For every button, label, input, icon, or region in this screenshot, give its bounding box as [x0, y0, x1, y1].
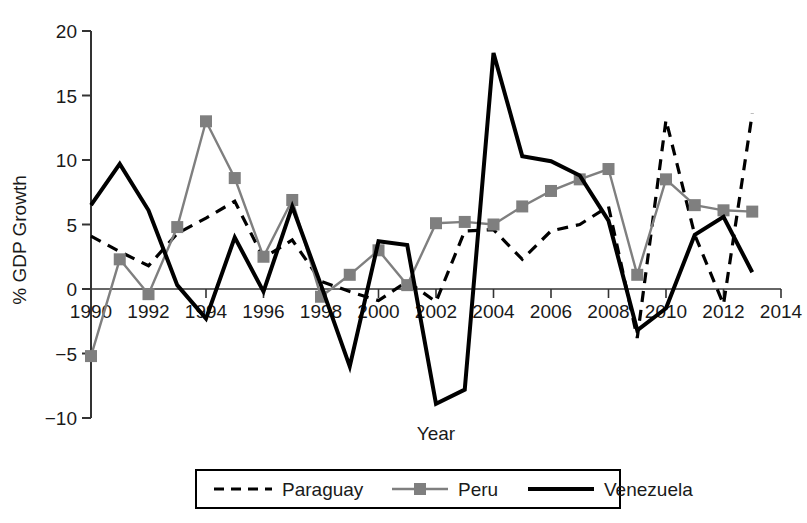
data-point-marker	[689, 199, 701, 211]
x-tick-label-2006: 2006	[530, 301, 572, 322]
data-point-marker	[143, 288, 155, 300]
x-tick-label-1998: 1998	[300, 301, 342, 322]
legend-label-venezuela: Venezuela	[604, 479, 693, 500]
x-tick-label-1992: 1992	[127, 301, 169, 322]
data-series-layer	[85, 53, 758, 404]
y-axis-tick-labels: −10−505101520	[45, 21, 77, 429]
data-point-marker	[200, 115, 212, 127]
data-point-marker	[603, 163, 615, 175]
data-point-marker	[488, 219, 500, 231]
x-tick-label-2014: 2014	[760, 301, 803, 322]
legend-label-paraguay: Paraguay	[282, 479, 364, 500]
y-tick-label-20: 20	[56, 21, 77, 42]
data-point-marker	[114, 253, 126, 265]
x-tick-label-2008: 2008	[587, 301, 629, 322]
chart-figure-root: −10−505101520 19901992199419961998200020…	[0, 0, 807, 523]
data-point-marker	[545, 185, 557, 197]
x-axis-title: Year	[417, 423, 456, 444]
data-point-marker	[258, 251, 270, 263]
y-tick-label-5: 5	[66, 215, 77, 236]
data-point-marker	[746, 206, 758, 218]
data-point-marker	[85, 350, 97, 362]
chart-canvas: −10−505101520 19901992199419961998200020…	[0, 0, 807, 523]
y-tick-label-15: 15	[56, 86, 77, 107]
legend-label-peru: Peru	[458, 479, 498, 500]
y-tick-label--5: −5	[55, 344, 77, 365]
x-axis-ticks	[91, 289, 781, 298]
data-point-marker	[401, 279, 413, 291]
x-tick-label-1996: 1996	[242, 301, 284, 322]
data-point-marker	[430, 217, 442, 229]
x-axis-tick-labels: 1990199219941996199820002002200420062008…	[70, 301, 803, 322]
data-point-marker	[171, 221, 183, 233]
x-tick-label-2012: 2012	[702, 301, 744, 322]
y-axis-title: % GDP Growth	[9, 175, 30, 305]
legend-marker-peru	[414, 483, 426, 495]
y-tick-label-0: 0	[66, 279, 77, 300]
chart-legend: ParaguayPeruVenezuela	[196, 470, 693, 508]
data-point-marker	[344, 269, 356, 281]
data-point-marker	[660, 173, 672, 185]
data-point-marker	[229, 172, 241, 184]
x-tick-label-2004: 2004	[472, 301, 515, 322]
data-point-marker	[459, 216, 471, 228]
y-tick-label--10: −10	[45, 408, 77, 429]
gdp-growth-line-chart: −10−505101520 19901992199419961998200020…	[0, 0, 807, 523]
y-tick-label-10: 10	[56, 150, 77, 171]
data-point-marker	[631, 269, 643, 281]
data-point-marker	[516, 200, 528, 212]
